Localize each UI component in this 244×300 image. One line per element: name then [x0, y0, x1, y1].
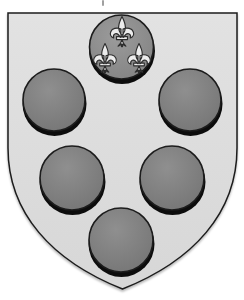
roundel-ball	[159, 69, 223, 136]
roundel-ball	[23, 69, 87, 136]
page	[0, 0, 244, 300]
chief-roundel	[89, 15, 155, 84]
roundel-ball	[89, 208, 155, 277]
roundel-ball	[140, 146, 206, 215]
roundel-ball	[40, 146, 106, 215]
coat-of-arms	[0, 0, 244, 300]
